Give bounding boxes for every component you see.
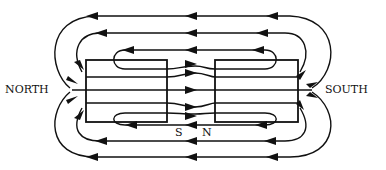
arrow-bottom-middle-center xyxy=(185,137,197,145)
arrow-north-2 xyxy=(66,76,78,84)
arrow-gap-3 xyxy=(185,86,197,94)
arrow-top-middle-right xyxy=(256,29,268,37)
arrow-bottom-middle-left xyxy=(95,137,107,145)
arrow-north-1 xyxy=(74,60,84,70)
arrow-gap-2 xyxy=(185,69,197,77)
arrow-top-middle-center xyxy=(185,29,197,37)
arrow-top-outer-right xyxy=(266,12,278,20)
magnet-field-diagram: NORTH SOUTH S N xyxy=(0,0,386,170)
arrow-top-outer-left xyxy=(86,12,98,20)
arrow-top-inner-left xyxy=(122,46,134,54)
arrow-gap-4 xyxy=(185,103,197,111)
arrow-bottom-outer-left xyxy=(86,153,98,161)
gap-s-label: S xyxy=(175,126,183,139)
arrow-bottom-middle-right xyxy=(264,137,276,145)
arrowheads xyxy=(66,12,318,161)
arrow-top-inner-right xyxy=(252,46,264,54)
arrow-gap-5 xyxy=(185,112,197,120)
arrow-top-middle-left xyxy=(95,29,107,37)
south-label: SOUTH xyxy=(325,83,368,96)
arrow-north-4 xyxy=(74,110,84,120)
north-label: NORTH xyxy=(5,83,49,96)
arrow-bottom-outer-right xyxy=(266,153,278,161)
gap-n-label: N xyxy=(202,126,212,139)
arrow-north-3 xyxy=(66,96,78,104)
arrow-bottom-outer-center xyxy=(185,153,197,161)
field-line-bottom-inner-left xyxy=(114,113,195,125)
arrow-top-inner-center xyxy=(185,46,197,54)
arrow-top-outer-center xyxy=(185,12,197,20)
arrow-bottom-inner-center xyxy=(185,121,197,129)
